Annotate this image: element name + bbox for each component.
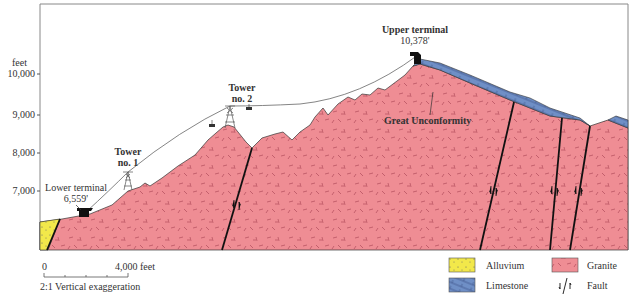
upper-terminal-elevation: 10,378' bbox=[400, 35, 430, 46]
y-tick: 10,000 bbox=[8, 68, 36, 79]
svg-text:4,000 feet: 4,000 feet bbox=[115, 261, 155, 272]
y-tick: 7,000 bbox=[13, 185, 36, 196]
great-unconformity-label: Great Unconformity bbox=[384, 115, 471, 126]
tower-2-label: Tower bbox=[229, 82, 256, 93]
tower-1-label-no: no. 1 bbox=[118, 157, 139, 168]
tower-2-label-no: no. 2 bbox=[232, 93, 253, 104]
lower-terminal-label: Lower terminal bbox=[45, 182, 107, 193]
y-axis-unit: feet bbox=[12, 57, 27, 68]
svg-text:2:1 Vertical exaggeration: 2:1 Vertical exaggeration bbox=[40, 281, 140, 292]
legend-alluvium-label: Alluvium bbox=[486, 260, 525, 271]
tower-1-label: Tower bbox=[115, 146, 142, 157]
y-tick: 9,000 bbox=[13, 109, 36, 120]
y-tick: 8,000 bbox=[13, 147, 36, 158]
legend: Alluvium Granite Limestone Fault bbox=[449, 258, 618, 294]
cross-section-diagram: feet 10,000 9,000 8,000 7,000 Upper term… bbox=[0, 0, 630, 303]
legend-fault-label: Fault bbox=[587, 280, 608, 291]
legend-limestone-label: Limestone bbox=[486, 280, 529, 291]
lower-terminal-elevation: 6,559' bbox=[64, 193, 89, 204]
svg-text:0: 0 bbox=[42, 261, 47, 272]
legend-granite-swatch bbox=[552, 258, 578, 272]
y-axis: feet 10,000 9,000 8,000 7,000 bbox=[8, 57, 41, 196]
tower-1-icon bbox=[123, 172, 133, 190]
upper-terminal-label: Upper terminal bbox=[382, 24, 448, 35]
legend-limestone-swatch bbox=[449, 278, 475, 292]
legend-granite-label: Granite bbox=[587, 260, 618, 271]
legend-alluvium-swatch bbox=[449, 258, 475, 272]
tower-2-icon bbox=[225, 106, 235, 128]
upper-terminal-icon bbox=[410, 52, 421, 64]
fault-icon bbox=[559, 278, 571, 294]
scale-bar: 0 4,000 feet 2:1 Vertical exaggeration bbox=[40, 261, 155, 292]
